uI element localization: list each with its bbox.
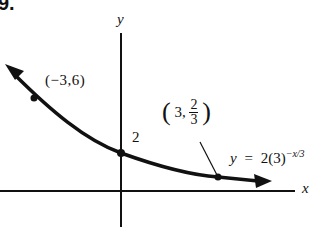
- point-x-value: 3,: [174, 104, 185, 120]
- fraction-denominator: 3: [189, 113, 198, 127]
- equation-label: y = 2(3)−x/3: [230, 148, 305, 167]
- y-axis-label: y: [117, 11, 124, 28]
- point-0-2: [117, 149, 125, 157]
- fraction: 2 3: [189, 98, 198, 127]
- x-axis-label: x: [302, 180, 309, 197]
- close-paren: ): [202, 97, 211, 126]
- equation-exponent: −x/3: [286, 148, 305, 159]
- problem-number: 9.: [0, 0, 15, 15]
- point-label-3-two-thirds: ( 3, 2 3 ): [162, 97, 211, 127]
- point-label-neg3-6: (−3,6): [45, 72, 85, 89]
- equation-lhs: y: [230, 150, 237, 166]
- point-label-0-2: 2: [132, 129, 140, 146]
- leader-line: [200, 142, 218, 177]
- point-neg3-6: [31, 95, 38, 102]
- curve-arrowhead-left: [5, 64, 24, 80]
- curve-arrowhead-right: [254, 174, 272, 188]
- exponential-curve: [14, 74, 258, 181]
- equation-base: 2(3): [261, 150, 286, 166]
- equation-equals: =: [244, 150, 252, 166]
- open-paren: (: [162, 97, 171, 126]
- fraction-numerator: 2: [189, 98, 198, 113]
